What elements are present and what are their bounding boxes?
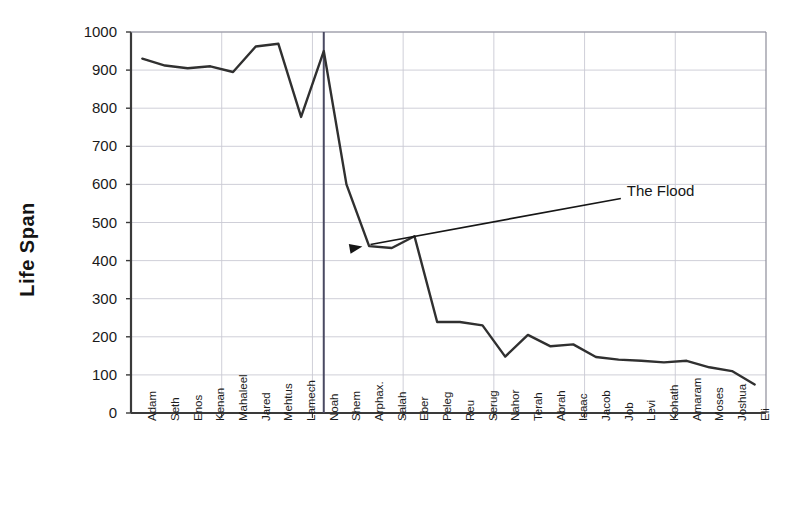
x-axis-tick-label: Moses	[714, 387, 726, 421]
y-axis-tick-label: 300	[61, 291, 117, 306]
x-axis-tick-label: Shem	[351, 391, 363, 421]
x-axis-tick-label: Nahor	[510, 390, 522, 421]
x-axis-tick-label: Serug	[488, 390, 500, 421]
x-axis-tick-label: Enos	[193, 395, 205, 421]
x-axis-tick-label: Jacob	[601, 390, 613, 421]
y-axis-tick-label: 1000	[61, 24, 117, 39]
flood-annotation-arrow	[349, 198, 621, 253]
x-axis-tick-label: Mehtus	[283, 383, 295, 421]
x-axis-tick-label: Adam	[147, 391, 159, 421]
y-axis-tick-label: 200	[61, 329, 117, 344]
x-axis-tick-label: Noah	[329, 394, 341, 422]
x-axis-tick-label: Salah	[397, 392, 409, 421]
x-axis-tick-label: Mahaleel	[238, 374, 250, 421]
x-axis-tick-label: Arphax.	[374, 381, 386, 421]
x-axis-tick-label: Isaac	[578, 394, 590, 422]
x-axis-tick-label: Kenan	[215, 388, 227, 421]
y-axis-tick-label: 400	[61, 253, 117, 268]
flood-annotation-label: The Flood	[627, 182, 695, 199]
y-axis-tick-label: 500	[61, 215, 117, 230]
y-axis-title-container: Life Span	[6, 170, 46, 330]
x-axis-tick-label: Terah	[533, 392, 545, 421]
lifespan-data-line	[142, 44, 754, 385]
y-axis-tick-label: 700	[61, 138, 117, 153]
y-axis-tick-label: 0	[61, 405, 117, 420]
x-axis-tick-label: Reu	[465, 400, 477, 421]
y-axis-tick-label: 600	[61, 176, 117, 191]
x-axis-tick-label: Seth	[170, 397, 182, 421]
x-axis-tick-label: Kohath	[669, 385, 681, 421]
y-axis-tick-label: 800	[61, 100, 117, 115]
x-axis-tick-label: Abrah	[556, 390, 568, 421]
lifespan-line-chart: Life Span 010020030040050060070080090010…	[0, 0, 809, 520]
gridlines	[131, 32, 766, 413]
x-axis-tick-label: Eli	[760, 408, 772, 421]
x-axis-tick-label: Jared	[261, 392, 273, 421]
x-axis-tick-label: Job	[624, 402, 636, 421]
y-axis-title: Life Span	[16, 185, 39, 315]
plot-area	[0, 0, 809, 520]
y-axis-tick-label: 100	[61, 367, 117, 382]
x-axis-tick-label: Levi	[646, 400, 658, 421]
y-axis-tick-label: 900	[61, 62, 117, 77]
x-axis-tick-label: Joshua	[737, 384, 749, 421]
x-axis-tick-label: Eber	[419, 397, 431, 421]
x-axis-tick-label: Peleg	[442, 392, 454, 421]
x-axis-tick-label: Amaram	[692, 378, 704, 421]
x-axis-tick-label: Lamech	[306, 380, 318, 421]
